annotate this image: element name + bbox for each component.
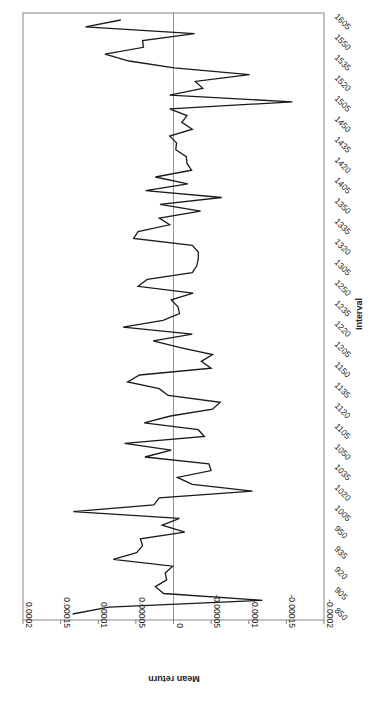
mean-return-line-chart: 0.00020.000150.00010.000050-0.00005-0.00… (0, 0, 383, 708)
y-tick-label: 0.0002 (24, 602, 34, 628)
y-tick-label: 0.00015 (62, 597, 72, 628)
y-tick-label: -0.00005 (212, 594, 222, 628)
x-axis-title: Interval (354, 298, 364, 330)
y-tick-label: 0 (175, 623, 185, 628)
y-axis-title: Mean return (148, 674, 200, 684)
y-tick-label: 0.00005 (137, 597, 147, 628)
y-tick-label: -0.0001 (250, 599, 260, 628)
y-tick-label: -0.00015 (287, 594, 297, 628)
y-tick-label: -0.0002 (325, 599, 335, 628)
y-tick-label: 0.0001 (99, 602, 109, 628)
